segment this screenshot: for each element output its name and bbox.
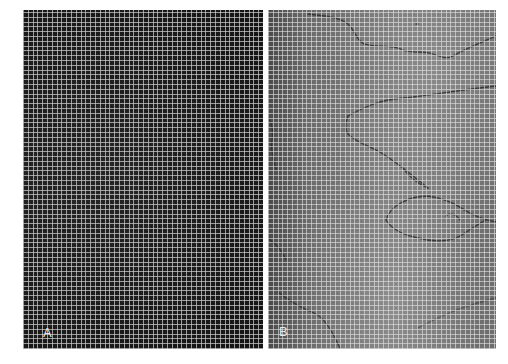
panel-b-grid <box>268 10 496 349</box>
panel-a-grid <box>23 10 263 349</box>
panel-b: B <box>268 10 496 349</box>
panel-a-label: A <box>43 326 52 339</box>
panel-a: A <box>23 10 263 349</box>
panel-b-label: B <box>279 325 288 338</box>
